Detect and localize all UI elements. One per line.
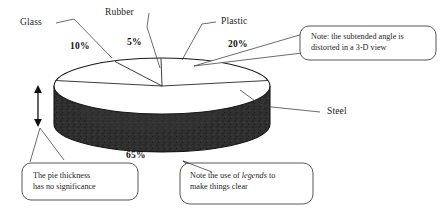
series-label-rubber: Rubber xyxy=(105,7,134,18)
callout-legend-note-line1-post: to xyxy=(267,171,275,180)
series-label-steel: Steel xyxy=(327,106,347,117)
figure-canvas: Glass Rubber Plastic Steel 10% 5% 20% 65… xyxy=(0,0,446,219)
callout-angle-note-line1: Note: the subtended angle is xyxy=(311,32,435,43)
callout-thickness-note-line2: has no significance xyxy=(33,182,137,193)
pie-solid xyxy=(54,58,270,152)
series-label-glass: Glass xyxy=(20,17,42,28)
thickness-arrow-head-down xyxy=(34,119,42,127)
callout-legend-note-text: Note the use of legends to make things c… xyxy=(190,171,310,193)
callout-angle-note-line2: distorted in a 3-D view xyxy=(311,43,435,54)
callout-legend-note-line1: Note the use of legends to xyxy=(190,171,310,182)
leader-line-thickness xyxy=(30,128,40,162)
value-label-glass: 10% xyxy=(70,41,90,51)
callout-legend-note-line2: make things clear xyxy=(190,182,310,193)
callout-angle-note-tail xyxy=(194,34,303,66)
callout-thickness-note-line1: The pie thickness xyxy=(33,171,137,182)
thickness-arrow-head-up xyxy=(34,85,42,93)
leader-line-plastic xyxy=(182,22,216,60)
thickness-arrow xyxy=(34,85,42,127)
callout-angle-note-text: Note: the subtended angle is distorted i… xyxy=(311,32,435,54)
value-label-plastic: 20% xyxy=(228,39,248,49)
callout-thickness-note-text: The pie thickness has no significance xyxy=(33,171,137,193)
value-label-rubber: 5% xyxy=(127,37,142,47)
callout-legend-note-line1-pre: Note the use of xyxy=(190,171,242,180)
callout-legend-note-emphasis: legends xyxy=(242,171,267,180)
series-label-plastic: Plastic xyxy=(221,16,247,27)
leader-line-glass xyxy=(56,19,112,58)
value-label-steel: 65% xyxy=(126,150,146,160)
